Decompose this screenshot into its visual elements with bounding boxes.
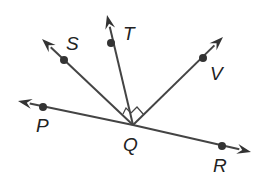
point-label-p: P <box>36 115 49 136</box>
point-label-r: R <box>213 155 227 176</box>
point-s <box>60 56 68 64</box>
point-label-v: V <box>210 63 225 84</box>
geometry-diagram: PSTVR Q <box>0 0 265 188</box>
point-p <box>39 103 47 111</box>
rays-figure: PSTVR Q <box>0 0 265 188</box>
point-label-s: S <box>66 33 79 54</box>
point-label-t: T <box>123 23 136 44</box>
point-t <box>107 39 115 47</box>
vertex-label-q: Q <box>123 134 138 155</box>
right-angle-mark-tqv <box>131 107 144 115</box>
point-v <box>199 54 207 62</box>
point-r <box>218 142 226 150</box>
